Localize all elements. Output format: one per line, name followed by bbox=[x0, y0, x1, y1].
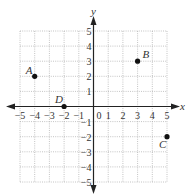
y-tick-label: −5 bbox=[81, 177, 92, 188]
x-axis-label: x bbox=[179, 100, 185, 112]
axes bbox=[6, 16, 180, 194]
x-tick-label: −5 bbox=[15, 110, 26, 121]
point-label: D bbox=[54, 93, 63, 105]
y-tick-label: −2 bbox=[81, 132, 92, 143]
x-tick-label: 3 bbox=[135, 110, 140, 121]
x-tick-label: 2 bbox=[120, 110, 125, 121]
x-tick-label: −3 bbox=[44, 110, 55, 121]
y-tick-label: −3 bbox=[81, 147, 92, 158]
x-tick-label: −2 bbox=[59, 110, 70, 121]
y-tick-label: −4 bbox=[81, 162, 92, 173]
x-tick-label: 0 bbox=[97, 110, 102, 121]
y-tick-label: 4 bbox=[87, 41, 92, 52]
point-C: C bbox=[159, 134, 170, 150]
y-tick-label: 2 bbox=[87, 71, 92, 82]
y-tick-label: 5 bbox=[87, 26, 92, 37]
point-label: A bbox=[25, 64, 33, 76]
x-axis-right-arrow-icon bbox=[171, 104, 180, 110]
x-tick-label: 1 bbox=[106, 110, 111, 121]
x-tick-label: 5 bbox=[165, 110, 170, 121]
x-axis-left-arrow-icon bbox=[6, 104, 15, 110]
y-tick-label: 1 bbox=[87, 86, 92, 97]
data-points: ABCD bbox=[25, 48, 170, 150]
y-tick-label: −1 bbox=[81, 117, 92, 128]
x-tick-label: 4 bbox=[150, 110, 155, 121]
point-label: B bbox=[143, 48, 150, 60]
coordinate-plane: −5−4−3−2−1012345−5−4−3−2−112345 ABCD x y bbox=[0, 0, 189, 196]
y-tick-label: 3 bbox=[87, 56, 92, 67]
point-B: B bbox=[135, 48, 150, 64]
y-axis-up-arrow-icon bbox=[91, 16, 97, 25]
y-axis-label: y bbox=[90, 5, 96, 17]
point-A: A bbox=[25, 64, 38, 79]
x-tick-label: −4 bbox=[29, 110, 40, 121]
point-label: C bbox=[159, 138, 167, 150]
